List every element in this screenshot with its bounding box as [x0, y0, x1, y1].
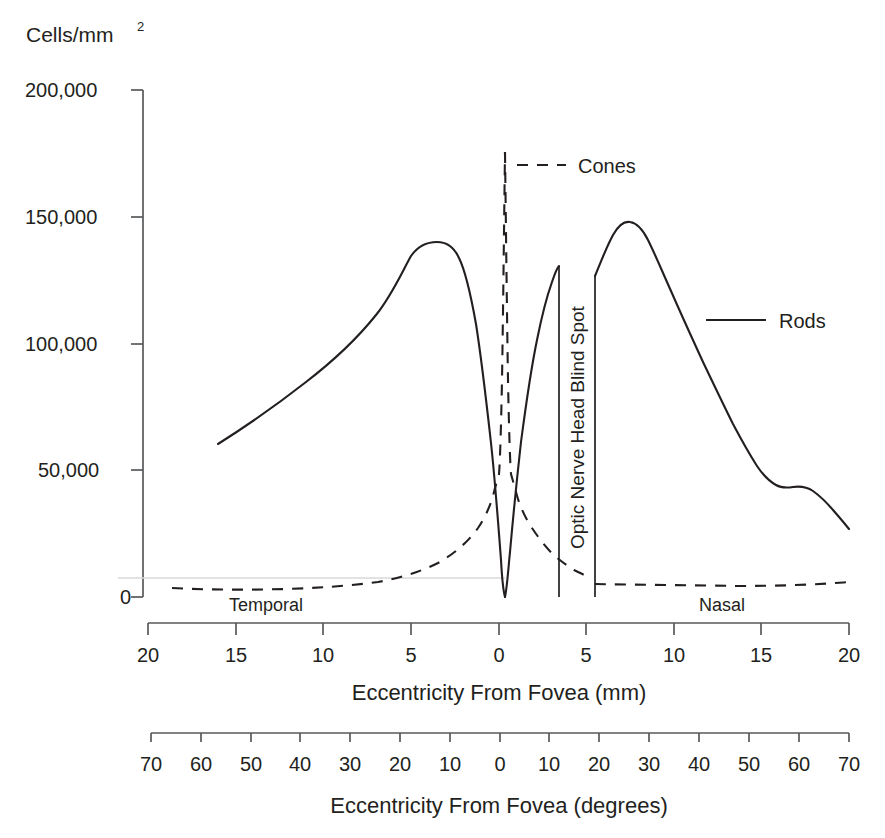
- x-axis-mm-label-20: 20: [838, 644, 860, 666]
- x-axis-deg-label-70: 70: [838, 753, 860, 775]
- x-axis-deg-label-40: 40: [688, 753, 710, 775]
- y-tick-label-50000: 50,000: [38, 459, 99, 481]
- x-axis-deg-label-10: 10: [538, 753, 560, 775]
- x-axis-degrees: 70 60 50 40 30 20 10 0 10 20 30 40 50 60…: [140, 733, 860, 818]
- x-axis-deg-label-20: 20: [588, 753, 610, 775]
- x-axis-mm: 20 15 10 5 0 5 10 15 20 Eccentricity Fro…: [137, 623, 860, 705]
- series-rods: [218, 222, 849, 597]
- region-label-nasal: Nasal: [699, 595, 745, 615]
- rods-curve-nasal: [595, 222, 849, 529]
- rods-curve-temporal: [218, 242, 505, 597]
- legend-rods: Rods: [706, 310, 826, 332]
- y-axis: 200,000 150,000 100,000 50,000 0: [25, 79, 143, 608]
- y-tick-label-0: 0: [120, 586, 131, 608]
- cones-curve-nasal-outer: [595, 582, 849, 586]
- x-axis-mm-label-15: 15: [750, 644, 772, 666]
- x-axis-deg-label--50: 50: [240, 753, 262, 775]
- x-axis-deg-label-0: 0: [494, 753, 505, 775]
- blind-spot-label: Optic Nerve Head Blind Spot: [567, 305, 588, 549]
- rods-legend-label: Rods: [779, 310, 826, 332]
- x-axis-deg-label--10: 10: [439, 753, 461, 775]
- region-label-temporal: Temporal: [229, 595, 303, 615]
- x-axis-mm-label-10: 10: [663, 644, 685, 666]
- y-axis-label-text: Cells/mm: [26, 23, 114, 46]
- x-axis-mm-label-0: 0: [493, 644, 504, 666]
- x-axis-deg-label--70: 70: [140, 753, 162, 775]
- y-tick-label-200000: 200,000: [25, 79, 97, 101]
- optic-nerve-head-blind-spot: Optic Nerve Head Blind Spot: [559, 266, 595, 597]
- x-axis-deg-label--60: 60: [190, 753, 212, 775]
- x-axis-deg-title: Eccentricity From Fovea (degrees): [330, 793, 667, 818]
- x-axis-deg-label--30: 30: [339, 753, 361, 775]
- rods-curve-fovea-to-blindspot: [505, 266, 559, 597]
- cones-curve-temporal: [172, 152, 505, 590]
- x-axis-deg-label--40: 40: [289, 753, 311, 775]
- legend-cones: Cones: [517, 155, 636, 177]
- x-axis-mm-label--10: 10: [312, 644, 334, 666]
- cones-legend-label: Cones: [578, 155, 636, 177]
- x-axis-deg-label--20: 20: [389, 753, 411, 775]
- x-axis-deg-label-30: 30: [638, 753, 660, 775]
- x-axis-mm-label--20: 20: [137, 644, 159, 666]
- x-axis-deg-label-50: 50: [738, 753, 760, 775]
- y-tick-label-150000: 150,000: [25, 206, 97, 228]
- x-axis-mm-label--5: 5: [405, 644, 416, 666]
- x-axis-mm-label-5: 5: [580, 644, 591, 666]
- chart-svg: Cells/mm 2 200,000 150,000 100,000 50,00…: [0, 0, 885, 838]
- y-axis-label-superscript: 2: [137, 19, 144, 34]
- x-axis-mm-title: Eccentricity From Fovea (mm): [352, 680, 647, 705]
- x-axis-deg-label-60: 60: [788, 753, 810, 775]
- x-axis-mm-label--15: 15: [225, 644, 247, 666]
- series-cones: [172, 152, 849, 590]
- retinal-photoreceptor-density-chart: Cells/mm 2 200,000 150,000 100,000 50,00…: [0, 0, 885, 838]
- y-tick-label-100000: 100,000: [25, 333, 97, 355]
- y-axis-label: Cells/mm 2: [26, 19, 144, 46]
